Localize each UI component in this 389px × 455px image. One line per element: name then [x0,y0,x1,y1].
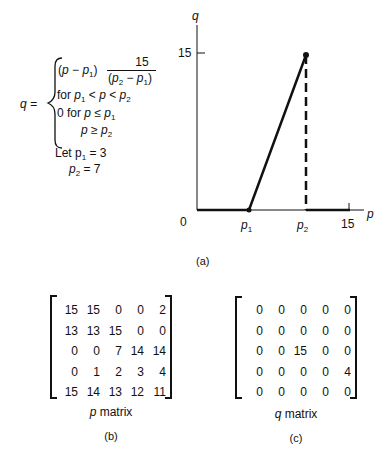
matrix-row: 001500 [241,341,351,362]
matrix-cell: 0 [241,362,263,383]
x-tick-p1: p1 [241,218,252,234]
matrix-cell: 14 [78,382,100,403]
matrix-cell: 0 [144,321,166,342]
right-bracket [165,295,172,399]
matrix-cell: 0 [307,321,329,342]
matrix-cell: 0 [100,300,122,321]
graph-caption: (a) [196,255,209,267]
matrix-cell: 14 [122,341,144,362]
matrix-cell: 0 [263,382,285,403]
q-matrix-caption: (c) [235,432,357,444]
p-matrix-caption: (b) [50,430,172,442]
p-matrix-table: 1515002131315000071414012341514131211 [56,300,166,403]
matrix-cell: 15 [78,300,100,321]
matrix-cell: 0 [285,321,307,342]
matrix-cell: 0 [307,382,329,403]
matrix-cell: 12 [122,382,144,403]
matrix-cell: 0 [56,341,78,362]
matrix-row: 01234 [56,362,166,383]
matrix-cell: 0 [329,382,351,403]
matrix-cell: 13 [78,321,100,342]
origin-label: 0 [180,215,187,229]
matrix-cell: 0 [285,362,307,383]
x-tick-15: 15 [341,217,354,231]
p-matrix: 1515002131315000071414012341514131211 [50,295,172,399]
matrix-cell: 13 [100,382,122,403]
matrix-cell: 0 [263,362,285,383]
p-matrix-label: p matrix [50,405,172,419]
matrix-cell: 15 [56,382,78,403]
matrix-cell: 4 [329,362,351,383]
matrix-cell: 0 [56,362,78,383]
matrix-row: 0071414 [56,341,166,362]
matrix-row: 00000 [241,321,351,342]
matrix-row: 00000 [241,382,351,403]
matrix-cell: 11 [144,382,166,403]
matrix-cell: 0 [285,382,307,403]
matrix-cell: 2 [144,300,166,321]
matrix-cell: 0 [263,341,285,362]
matrix-cell: 0 [307,341,329,362]
y-axis-label: q [192,9,199,23]
q-matrix-label: q matrix [235,407,357,421]
matrix-cell: 0 [122,300,144,321]
matrix-cell: 0 [241,341,263,362]
x-axis-label: p [367,207,374,221]
matrix-cell: 0 [122,321,144,342]
y-tick-label: 15 [178,46,191,60]
matrix-row: 00000 [241,300,351,321]
matrix-row: 00004 [241,362,351,383]
matrix-cell: 0 [307,362,329,383]
matrix-cell: 0 [241,321,263,342]
matrix-cell: 0 [263,321,285,342]
matrix-cell: 0 [78,341,100,362]
matrix-cell: 4 [144,362,166,383]
matrix-cell: 7 [100,341,122,362]
matrix-cell: 0 [307,300,329,321]
matrix-cell: 0 [263,300,285,321]
matrix-cell: 0 [329,300,351,321]
matrix-cell: 2 [100,362,122,383]
matrix-cell: 1 [78,362,100,383]
matrix-cell: 0 [329,341,351,362]
q-matrix: 00000000000015000000400000 [235,296,357,399]
matrix-cell: 0 [241,300,263,321]
matrix-cell: 3 [122,362,144,383]
matrix-cell: 15 [285,341,307,362]
matrix-row: 1515002 [56,300,166,321]
q-matrix-table: 00000000000015000000400000 [241,300,351,403]
matrix-row: 1514131211 [56,382,166,403]
matrix-cell: 13 [56,321,78,342]
matrix-cell: 0 [241,382,263,403]
matrix-cell: 14 [144,341,166,362]
matrix-cell: 0 [285,300,307,321]
x-tick-p2: p2 [297,218,308,234]
matrix-cell: 0 [329,321,351,342]
matrix-cell: 15 [100,321,122,342]
matrix-cell: 15 [56,300,78,321]
right-bracket [350,296,357,399]
matrix-row: 13131500 [56,321,166,342]
